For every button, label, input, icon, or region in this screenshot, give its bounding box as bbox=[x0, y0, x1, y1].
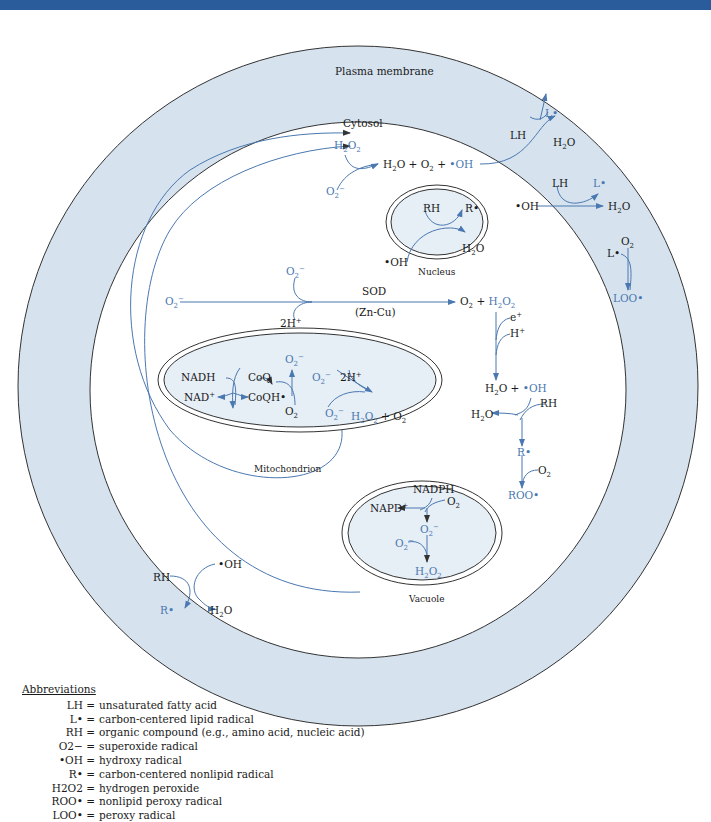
fenton-e: e+ bbox=[510, 312, 522, 323]
legend-row: RH =organic compound (e.g., amino acid, … bbox=[22, 726, 365, 740]
sod-2h: 2H+ bbox=[280, 318, 302, 329]
sod-o2minus-top: O2− bbox=[286, 266, 305, 277]
sod-o2minus-left: O2− bbox=[165, 296, 184, 307]
mito-o2minus-b: O2− bbox=[325, 408, 344, 419]
roo-radical: ROO• bbox=[508, 490, 539, 501]
l-radical-right: L• bbox=[593, 178, 606, 189]
cyto-products: H2O + O2 + •OH bbox=[383, 159, 473, 170]
vac-napd: NAPD+ bbox=[370, 503, 408, 514]
lh-right: LH bbox=[552, 178, 568, 189]
sod-products: O2 + H2O2 bbox=[460, 296, 515, 307]
loo-radical: LOO• bbox=[613, 293, 643, 304]
legend-row: ROO• =nonlipid peroxy radical bbox=[22, 795, 365, 809]
mitochondrion-label: Mitochondrion bbox=[254, 465, 321, 474]
h2o-right: H2O bbox=[608, 201, 630, 212]
bottom-oh: •OH bbox=[218, 559, 242, 570]
abbreviations-title: Abbreviations bbox=[22, 683, 365, 695]
l-radical-loo: L• bbox=[607, 248, 620, 259]
mito-coq: CoQ bbox=[248, 372, 271, 383]
nucleus-label: Nucleus bbox=[418, 268, 455, 277]
vac-h2o2: H2O2 bbox=[415, 566, 442, 577]
nucleus-r-radical: R• bbox=[465, 203, 479, 214]
legend-row: •OH =hydroxy radical bbox=[22, 753, 365, 767]
mito-products: H2O2 + O2 bbox=[351, 411, 406, 422]
plasma-membrane-label: Plasma membrane bbox=[335, 66, 434, 77]
cyto-h2o2: H2O2 bbox=[334, 140, 361, 151]
mito-coqh: CoQH• bbox=[248, 392, 286, 403]
nucleus-rh: RH bbox=[423, 203, 440, 214]
vac-o2: O2 bbox=[447, 496, 460, 507]
bottom-rh: RH bbox=[153, 572, 170, 583]
mito-nadh: NADH bbox=[181, 372, 215, 383]
h2o-top: H2O bbox=[553, 137, 575, 148]
legend-row: O2− =superoxide radical bbox=[22, 739, 365, 753]
legend-row: H2O2 =hydrogen peroxide bbox=[22, 781, 365, 795]
mito-2h: 2H+ bbox=[340, 372, 362, 383]
bottom-r-radical: R• bbox=[160, 605, 174, 616]
cytosol-label: Cytosol bbox=[343, 118, 383, 129]
mito-nad: NAD+ bbox=[184, 392, 215, 403]
o2-membrane: O2 bbox=[621, 236, 634, 247]
legend-row: LH =unsaturated fatty acid bbox=[22, 698, 365, 712]
fenton-h2o-out: H2O bbox=[471, 409, 493, 420]
mito-o2minus-a: O2− bbox=[312, 372, 331, 383]
mito-o2: O2 bbox=[285, 406, 298, 417]
sod-enzyme: SOD bbox=[362, 286, 386, 297]
lh-top: LH bbox=[510, 130, 526, 141]
sod-cofactor: (Zn-Cu) bbox=[355, 307, 396, 318]
l-radical-top: L• bbox=[545, 108, 558, 119]
oh-right: •OH bbox=[515, 201, 539, 212]
fenton-rh: RH bbox=[540, 398, 557, 409]
vac-o2minus-left: O2− bbox=[395, 538, 414, 549]
nucleus-oh: •OH bbox=[384, 257, 408, 268]
nucleus-h2o: H2O bbox=[462, 243, 484, 254]
bottom-h2o: H2O bbox=[210, 605, 232, 616]
cyto-o2minus: O2− bbox=[326, 186, 345, 197]
legend-row: LOO• =peroxy radical bbox=[22, 808, 365, 822]
fenton-h: H+ bbox=[510, 328, 525, 339]
legend-row: R• =carbon-centered nonlipid radical bbox=[22, 767, 365, 781]
legend-row: L• =carbon-centered lipid radical bbox=[22, 712, 365, 726]
vacuole-label: Vacuole bbox=[409, 595, 445, 604]
fenton-h2o-oh: H2O + •OH bbox=[485, 383, 547, 394]
abbreviations-legend: Abbreviations LH =unsaturated fatty acid… bbox=[22, 683, 365, 822]
mito-o2minus-top: O2− bbox=[285, 354, 304, 365]
vac-o2minus-mid: O2− bbox=[420, 524, 439, 535]
vac-nadph: NADPH bbox=[413, 484, 454, 495]
fenton-o2: O2 bbox=[538, 465, 551, 476]
fenton-r-radical: R• bbox=[517, 447, 531, 458]
